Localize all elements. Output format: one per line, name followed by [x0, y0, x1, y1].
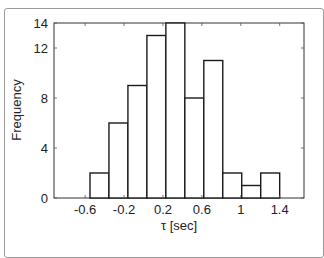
x-tick-label: 0.6	[193, 202, 211, 217]
histogram-bar	[185, 98, 204, 198]
x-tick-label: -0.6	[74, 202, 96, 217]
histogram-bar	[261, 173, 280, 198]
y-tick-label: 4	[41, 141, 48, 156]
y-axis-label: Frequency	[9, 79, 24, 141]
x-tick-label: -0.2	[113, 202, 135, 217]
x-axis-label: τ [sec]	[161, 218, 197, 233]
y-tick-label: 0	[41, 191, 48, 206]
y-tick-label: 8	[41, 91, 48, 106]
histogram-bar	[90, 173, 109, 198]
histogram-bar	[204, 61, 223, 199]
y-tick-label: 14	[34, 16, 48, 31]
histogram-bar	[128, 86, 147, 199]
histogram-bar	[109, 123, 128, 198]
x-tick-label: 1	[237, 202, 244, 217]
histogram-bar	[166, 23, 185, 198]
histogram-bar	[242, 186, 261, 199]
histogram-bar	[223, 173, 242, 198]
histogram-bar	[147, 36, 166, 199]
x-tick-label: 0.2	[154, 202, 172, 217]
x-tick-label: 1.4	[271, 202, 289, 217]
y-tick-label: 12	[34, 41, 48, 56]
